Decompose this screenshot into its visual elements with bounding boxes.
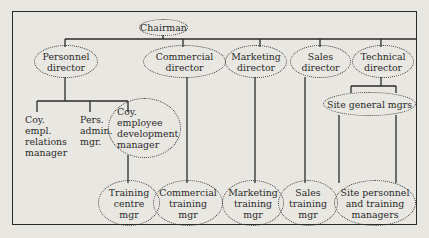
node-commercial-training-mgr: Commercial training mgr (153, 180, 223, 226)
node-marketing-training-mgr: Marketing training mgr (222, 180, 284, 226)
node-label: Chairman (140, 22, 187, 33)
node-coy-empl-relations-manager: Coy. empl. relations manager (25, 114, 85, 160)
node-site-personnel-and-training-managers: Site personnel and training managers (334, 180, 416, 226)
node-label: Technical director (360, 51, 405, 73)
node-label: Personnel director (43, 51, 90, 73)
node-sales-director: Sales director (290, 45, 351, 78)
node-marketing-director: Marketing director (225, 45, 287, 78)
node-label: Marketing director (231, 51, 281, 73)
node-label: Coy. empl. relations manager (25, 114, 67, 158)
node-label: Marketing training mgr (228, 187, 278, 220)
node-label: Site personnel and training managers (341, 187, 410, 220)
node-label: Site general mgrs (327, 99, 412, 110)
node-label: Training centre mgr (109, 187, 149, 220)
node-sales-training-mgr: Sales training mgr (278, 180, 338, 226)
node-label: Sales director (301, 51, 339, 73)
node-site-general-mgrs: Site general mgrs (323, 92, 416, 116)
node-label: Commercial training mgr (159, 187, 216, 220)
node-coy-employee-development-manager: Coy. employee development manager (108, 98, 181, 158)
node-commercial-director: Commercial director (143, 45, 226, 78)
node-chairman: Chairman (139, 19, 188, 36)
node-label: Commercial director (156, 51, 213, 73)
node-label: Coy. employee development manager (117, 106, 178, 150)
node-label: Sales training mgr (289, 187, 327, 220)
node-technical-director: Technical director (352, 45, 414, 78)
node-training-centre-mgr: Training centre mgr (98, 180, 160, 226)
node-personnel-director: Personnel director (34, 45, 98, 78)
